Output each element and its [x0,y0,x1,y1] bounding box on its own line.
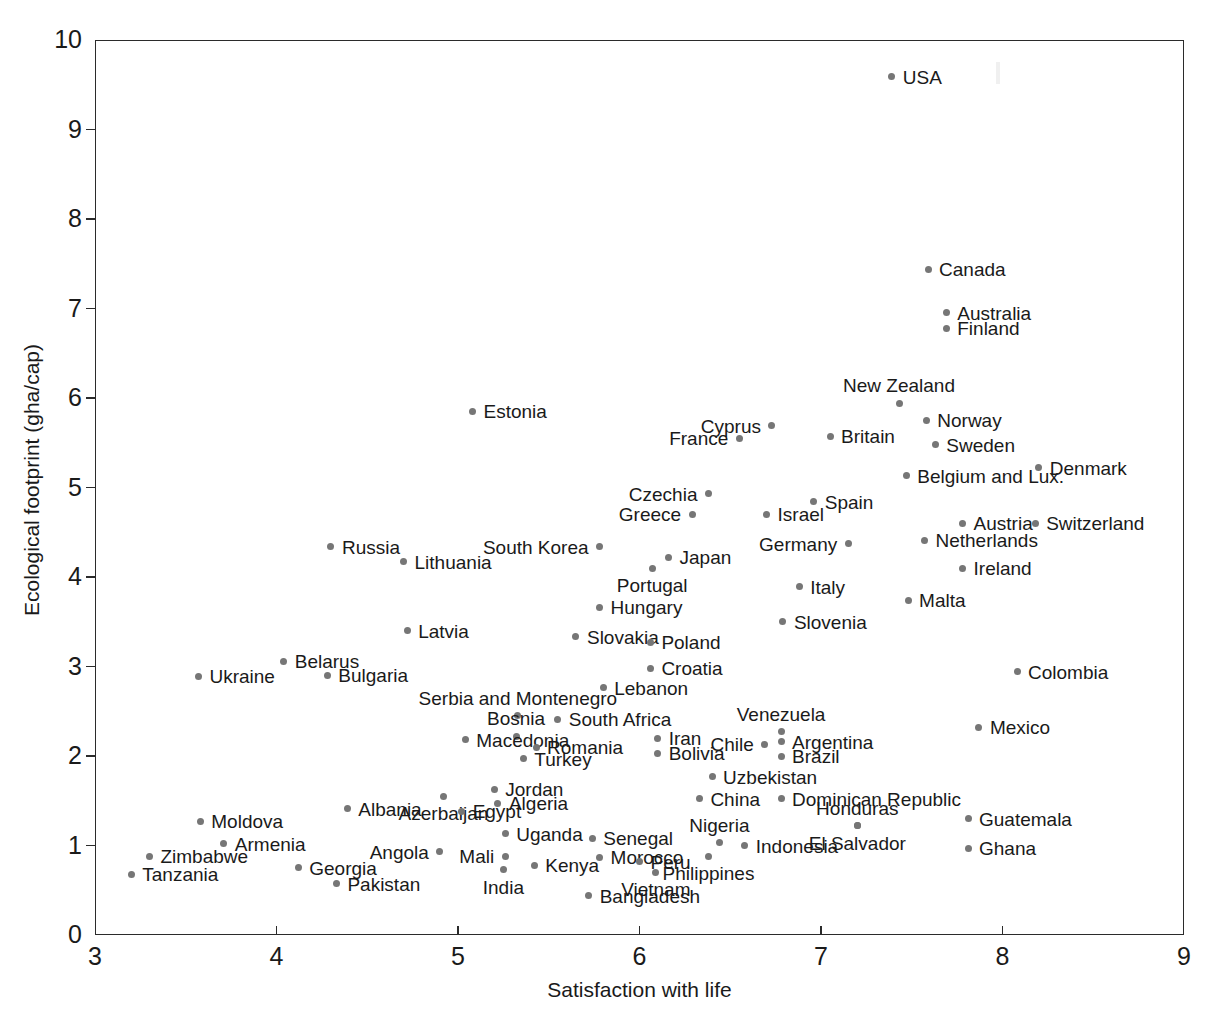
data-point-label: Pakistan [347,874,420,893]
data-point-marker [502,853,509,860]
data-point-marker [778,738,785,745]
data-point-marker [778,728,785,735]
x-axis-tick-mark [639,926,640,935]
y-axis-tick-mark [86,576,95,577]
data-point-marker [709,773,716,780]
x-axis-tick-label: 5 [428,944,488,969]
data-point-label: Angola [370,842,429,861]
y-axis-tick-label: 2 [38,743,82,768]
data-point-marker [923,417,930,424]
data-point-marker [827,433,834,440]
data-point-label: Poland [661,633,720,652]
data-point-marker [1032,520,1039,527]
data-point-marker [965,815,972,822]
x-axis-tick-mark [457,926,458,935]
y-axis-tick-mark [86,218,95,219]
data-point-label: Colombia [1028,662,1108,681]
data-point-marker [943,325,950,332]
data-point-label: Israel [778,505,824,524]
x-axis-tick-mark [276,926,277,935]
data-point-label: Portugal [617,576,688,595]
data-point-marker [404,627,411,634]
data-point-label: Canada [939,260,1006,279]
x-axis-tick-label: 9 [1154,944,1214,969]
data-point-marker [763,511,770,518]
data-point-marker [647,639,654,646]
data-point-marker [440,793,447,800]
data-point-label: New Zealand [843,376,955,395]
data-point-label: Moldova [211,812,283,831]
data-point-label: Bolivia [669,744,725,763]
data-point-label: Venezuela [737,705,826,724]
data-point-label: Russia [342,537,400,556]
data-point-label: Lithuania [415,552,492,571]
data-point-label: Albania [358,799,421,818]
x-axis-tick-mark [820,926,821,935]
data-point-label: Serbia and Montenegro [419,689,618,708]
data-point-marker [469,408,476,415]
data-point-label: Uzbekistan [723,767,817,786]
data-point-label: Greece [619,505,681,524]
scatter-plot-figure: 0123456789103456789 USACanadaAustraliaFi… [0,0,1214,1026]
data-point-marker [654,735,661,742]
data-point-label: Brazil [792,747,840,766]
data-point-label: Switzerland [1046,514,1144,533]
data-point-label: Hungary [611,598,683,617]
x-axis-tick-label: 8 [973,944,1033,969]
data-point-label: Ghana [979,839,1036,858]
y-axis-tick-label: 5 [38,475,82,500]
y-axis-tick-mark [86,755,95,756]
y-axis-tick-label: 1 [38,833,82,858]
data-point-marker [689,511,696,518]
data-point-marker [128,871,135,878]
data-point-marker [654,750,661,757]
data-point-marker [778,753,785,760]
data-point-label: Kenya [545,856,599,875]
data-point-marker [932,441,939,448]
y-axis-tick-label: 7 [38,296,82,321]
data-point-marker [197,818,204,825]
data-point-label: Finland [957,319,1019,338]
y-axis-tick-mark [86,129,95,130]
scan-artifact [996,62,1000,84]
y-axis-tick-mark [86,487,95,488]
data-point-label: Bosnia [487,709,545,728]
y-axis-tick-label: 9 [38,117,82,142]
data-point-marker [665,554,672,561]
data-point-marker [959,520,966,527]
data-point-label: USA [903,67,942,86]
x-axis-tick-label: 4 [247,944,307,969]
y-axis-tick-mark [86,397,95,398]
data-point-label: Senegal [603,829,673,848]
data-point-label: Bulgaria [338,666,408,685]
y-axis-tick-label: 6 [38,385,82,410]
x-axis-tick-label: 7 [791,944,851,969]
data-point-marker [647,665,654,672]
data-point-marker [500,866,507,873]
x-axis-tick-label: 6 [610,944,670,969]
x-axis-tick-mark [1002,926,1003,935]
data-point-marker [1014,668,1021,675]
data-point-marker [649,565,656,572]
data-point-marker [324,672,331,679]
data-point-label: Ireland [974,559,1032,578]
data-point-label: Mali [459,847,494,866]
data-point-label: Ukraine [209,667,274,686]
data-point-marker [705,853,712,860]
data-point-marker [596,604,603,611]
data-point-label: Sweden [946,435,1015,454]
data-point-marker [589,835,596,842]
data-point-label: Lebanon [614,678,688,697]
data-point-label: Indonesia [756,836,838,855]
y-axis-tick-label: 4 [38,564,82,589]
data-point-label: Turkey [534,749,591,768]
data-point-label: China [710,789,760,808]
data-point-label: Spain [825,492,874,511]
data-point-marker [520,755,527,762]
data-point-label: Croatia [661,659,722,678]
data-point-label: Guatemala [979,809,1072,828]
data-point-label: Italy [810,577,845,596]
data-point-marker [905,597,912,604]
data-point-label: South Africa [569,710,671,729]
y-axis-tick-label: 10 [38,27,82,52]
